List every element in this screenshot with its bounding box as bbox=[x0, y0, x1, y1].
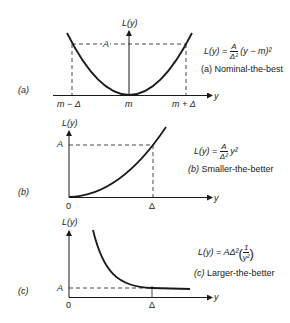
panel-a-formula: L(y) = AΔ² (y − m)² bbox=[204, 43, 272, 61]
fraction-numerator: A bbox=[220, 143, 228, 152]
formula-fraction: AΔ² bbox=[220, 143, 228, 161]
caption-letter: (a) bbox=[201, 64, 212, 74]
panel-c-caption: (c) Larger-the-better bbox=[194, 269, 275, 278]
panel-a-label: (a) bbox=[18, 86, 29, 95]
panel-c-y-axis-label: L(y) bbox=[62, 218, 78, 227]
panel-a-tick-m-plus-delta: m + Δ bbox=[172, 100, 196, 109]
formula-lhs: L(y) = AΔ² bbox=[198, 247, 238, 257]
panel-b-plot bbox=[69, 127, 212, 198]
formula-rhs: (y − m)² bbox=[240, 46, 271, 56]
decreasing-curve bbox=[93, 230, 190, 289]
panel-a-caption: (a) Nominal-the-best bbox=[201, 65, 283, 74]
panel-a-tick-m-minus-delta: m − Δ bbox=[57, 100, 81, 109]
panel-c-level-label: A bbox=[57, 284, 63, 293]
panel-a-x-axis-label: y bbox=[214, 92, 219, 101]
panel-b-label: (b) bbox=[18, 188, 29, 197]
formula-lhs: L(y) = bbox=[204, 46, 227, 56]
fraction-denominator: Δ² bbox=[220, 152, 228, 161]
fraction-numerator: A bbox=[230, 43, 238, 52]
panel-b-caption: (b) Smaller-the-better bbox=[188, 165, 274, 174]
panel-b-y-axis-label: L(y) bbox=[62, 119, 78, 128]
fraction-denominator: Δ² bbox=[230, 52, 238, 61]
panel-a-tick-m: m bbox=[125, 100, 133, 109]
panel-c-formula: L(y) = AΔ²(1y²) bbox=[198, 244, 254, 262]
caption-text: Nominal-the-best bbox=[215, 64, 284, 74]
panel-a-plot bbox=[53, 31, 212, 96]
caption-text: Larger-the-better bbox=[207, 268, 275, 278]
panel-b-formula: L(y) = AΔ² y² bbox=[194, 143, 238, 161]
caption-letter: (c) bbox=[194, 268, 205, 278]
panel-c-label: (c) bbox=[18, 287, 29, 296]
panel-c-plot bbox=[69, 230, 212, 298]
panel-b-x-axis-label: y bbox=[214, 194, 219, 203]
panel-a-level-label: A bbox=[102, 40, 110, 49]
panel-c-tick-zero: 0 bbox=[66, 301, 71, 310]
panel-a-y-axis-label: L(y) bbox=[122, 19, 138, 28]
panel-b-tick-delta: Δ bbox=[149, 202, 155, 211]
caption-letter: (b) bbox=[188, 164, 199, 174]
increasing-curve bbox=[69, 127, 166, 197]
formula-fraction: AΔ² bbox=[230, 43, 238, 61]
formula-rhs: y² bbox=[230, 146, 238, 156]
panel-c-tick-delta: Δ bbox=[149, 301, 155, 310]
right-paren: ) bbox=[249, 246, 253, 261]
caption-text: Smaller-the-better bbox=[202, 164, 274, 174]
panel-b-tick-zero: 0 bbox=[66, 202, 71, 211]
panel-b-level-label: A bbox=[57, 140, 63, 149]
formula-lhs: L(y) = bbox=[194, 146, 217, 156]
panel-c-x-axis-label: y bbox=[214, 293, 219, 302]
